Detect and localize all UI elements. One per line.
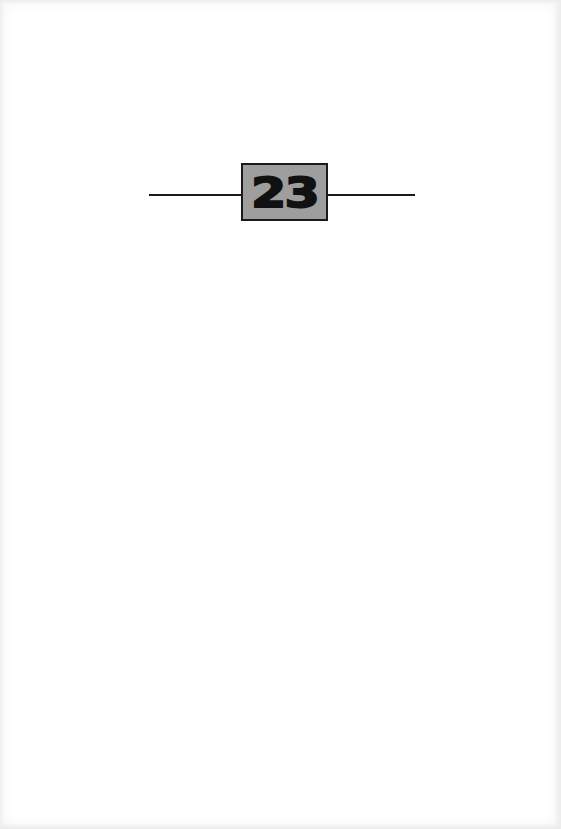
chapter-number-box: 23 [241,163,328,221]
scan-edge-left [0,0,5,829]
scan-edge-top [0,0,561,4]
scan-edge-bottom [0,823,561,829]
chapter-number: 23 [251,173,318,213]
document-page: 23 [0,0,561,829]
scan-edge-right [553,0,561,829]
